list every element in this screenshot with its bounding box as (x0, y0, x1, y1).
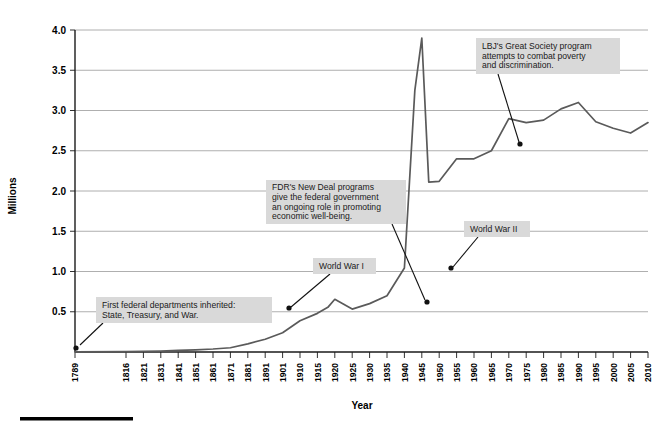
annotation-leader-line (80, 323, 103, 345)
x-tick-label: 1925 (348, 363, 358, 382)
annotation-first-federal-departments: First federal departments inherited:Stat… (73, 297, 272, 351)
y-tick-label: 0.5 (52, 306, 66, 317)
x-tick-label: 1965 (487, 363, 497, 382)
x-tick-label: 1871 (226, 363, 236, 382)
x-tick-label: 1980 (539, 363, 549, 382)
x-tick-label: 1910 (295, 363, 305, 382)
x-tick-label: 1985 (556, 363, 566, 382)
x-tick-label: 1970 (504, 363, 514, 382)
x-tick-label: 1861 (208, 363, 218, 382)
x-tick-label: 1960 (469, 363, 479, 382)
annotation-text-line: World War I (319, 261, 364, 271)
annotation-leader-line (392, 224, 425, 300)
y-axis-ticks-group: 0.51.01.52.02.53.03.54.0 (52, 25, 75, 318)
x-tick-label: 1945 (417, 363, 427, 382)
annotation-leader-line (453, 237, 478, 267)
annotation-marker-dot (448, 265, 453, 270)
y-tick-label: 4.0 (52, 25, 66, 36)
x-tick-label: 1901 (278, 363, 288, 382)
x-tick-label: 1891 (261, 363, 271, 382)
x-tick-label: 1930 (365, 363, 375, 382)
x-axis-ticks-group: 1789181618211831184118511861187118811891… (70, 352, 653, 382)
x-tick-label: 1950 (435, 363, 445, 382)
annotation-marker-dot (517, 141, 522, 146)
x-tick-label: 1841 (174, 363, 184, 382)
annotation-text-line: give the federal government (272, 192, 379, 202)
annotation-text-line: and discrimination. (482, 60, 554, 70)
y-tick-label: 1.5 (52, 226, 66, 237)
annotation-leader-line (291, 274, 330, 307)
x-tick-label: 2000 (609, 363, 619, 382)
annotation-text-line: FDR's New Deal programs (272, 182, 374, 192)
annotation-text-line: attempts to combat poverty (482, 51, 586, 61)
x-tick-label: 1920 (330, 363, 340, 382)
annotation-text-line: World War II (470, 224, 517, 234)
annotation-marker-dot (286, 305, 291, 310)
y-tick-label: 3.5 (52, 65, 66, 76)
x-tick-label: 2010 (643, 363, 653, 382)
x-tick-label: 1935 (382, 363, 392, 382)
x-tick-label: 1881 (243, 363, 253, 382)
x-tick-label: 1851 (191, 363, 201, 382)
x-tick-label: 2005 (626, 363, 636, 382)
x-tick-label: 1831 (156, 363, 166, 382)
annotation-marker-dot (424, 299, 429, 304)
annotation-text-line: an ongoing role in promoting (272, 202, 381, 212)
x-tick-label: 1990 (574, 363, 584, 382)
annotation-text-line: First federal departments inherited: (102, 300, 235, 310)
annotation-marker-dot (73, 345, 78, 350)
annotation-world-war-ii: World War II (448, 221, 530, 271)
chart-figure: 0.51.01.52.02.53.03.54.0 178918161821183… (0, 0, 669, 424)
x-tick-label: 1975 (522, 363, 532, 382)
x-axis-title: Year (351, 400, 372, 411)
x-tick-label: 1915 (313, 363, 323, 382)
x-tick-label: 1816 (121, 363, 131, 382)
y-axis-title: Millions (7, 177, 18, 215)
annotation-text-line: LBJ's Great Society program (482, 41, 592, 51)
x-tick-label: 1995 (591, 363, 601, 382)
annotation-fdr-new-deal: FDR's New Deal programsgive the federal … (266, 180, 430, 305)
y-tick-label: 2.5 (52, 145, 66, 156)
annotation-lbj-great-society: LBJ's Great Society programattempts to c… (476, 38, 620, 147)
x-tick-label: 1955 (452, 363, 462, 382)
x-tick-label: 1789 (70, 363, 80, 382)
annotations-group: First federal departments inherited:Stat… (73, 38, 620, 351)
y-tick-label: 1.0 (52, 266, 66, 277)
footer-rule (20, 417, 133, 421)
x-tick-label: 1940 (400, 363, 410, 382)
y-tick-label: 3.0 (52, 105, 66, 116)
x-tick-label: 1821 (139, 363, 149, 382)
line-chart-canvas: 0.51.01.52.02.53.03.54.0 178918161821183… (0, 0, 669, 424)
y-tick-label: 2.0 (52, 186, 66, 197)
annotation-text-line: economic well-being. (272, 211, 352, 221)
annotation-text-line: State, Treasury, and War. (102, 310, 198, 320)
